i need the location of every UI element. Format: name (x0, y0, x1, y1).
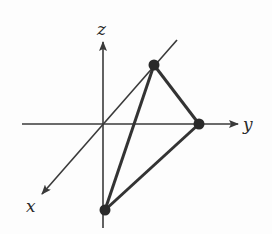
z-axis-label: z (96, 19, 107, 39)
vertex-b-on-y-axis (194, 119, 205, 130)
triangle-edge-ab (154, 65, 199, 124)
vertex-c-on-z-axis (100, 205, 111, 216)
y-axis-label: y (242, 114, 253, 134)
x-axis-label: x (26, 196, 36, 216)
coordinate-diagram: z y x (0, 0, 272, 234)
diagram-canvas: z y x (0, 0, 272, 234)
vertex-a-on-x-axis (149, 60, 160, 71)
